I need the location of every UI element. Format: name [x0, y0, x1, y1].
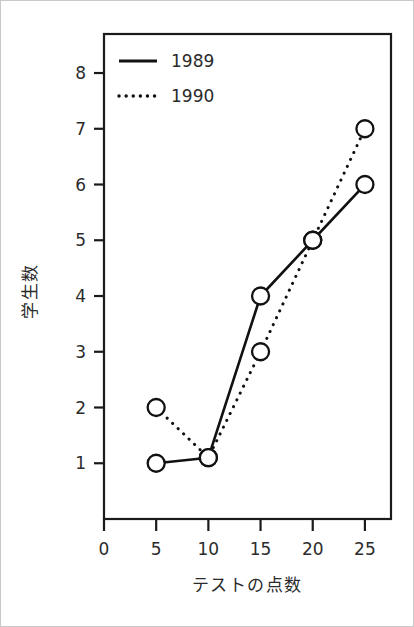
x-axis-tick-labels: 0510152025: [99, 539, 376, 559]
x-tick-label-10: 10: [198, 539, 220, 559]
x-axis-title: テストの点数: [192, 575, 303, 595]
line-chart: 12345678 0510152025 19891990 テストの点数 学生数: [1, 1, 414, 627]
data-point-1989-25: [356, 176, 373, 193]
data-point-1990-25: [356, 120, 373, 137]
data-point-1990-10: [200, 449, 217, 466]
x-axis-ticks: [104, 519, 365, 531]
chart-legend: 19891990: [119, 51, 214, 106]
chart-figure: 12345678 0510152025 19891990 テストの点数 学生数: [0, 0, 414, 627]
data-point-1990-15: [252, 343, 269, 360]
y-tick-label-3: 3: [75, 342, 86, 362]
y-tick-label-2: 2: [75, 398, 86, 418]
y-tick-label-7: 7: [75, 119, 86, 139]
y-tick-label-4: 4: [75, 286, 86, 306]
y-tick-label-6: 6: [75, 175, 86, 195]
data-point-1989-5: [148, 455, 165, 472]
y-axis-ticks: [94, 73, 104, 463]
data-point-1989-15: [252, 288, 269, 305]
plot-frame: [104, 34, 391, 519]
x-tick-label-25: 25: [354, 539, 376, 559]
data-marker-group: [148, 120, 374, 471]
x-tick-label-0: 0: [99, 539, 110, 559]
y-axis-title: 学生数: [20, 263, 40, 319]
y-tick-label-8: 8: [75, 63, 86, 83]
x-tick-label-20: 20: [302, 539, 324, 559]
legend-label-1990: 1990: [171, 86, 214, 106]
x-tick-label-5: 5: [151, 539, 162, 559]
data-point-1990-5: [148, 399, 165, 416]
y-tick-label-1: 1: [75, 453, 86, 473]
data-point-1990-20: [304, 232, 321, 249]
x-tick-label-15: 15: [250, 539, 272, 559]
y-tick-label-5: 5: [75, 230, 86, 250]
legend-label-1989: 1989: [171, 51, 214, 71]
y-axis-tick-labels: 12345678: [75, 63, 86, 473]
series-line-1989: [156, 185, 365, 464]
